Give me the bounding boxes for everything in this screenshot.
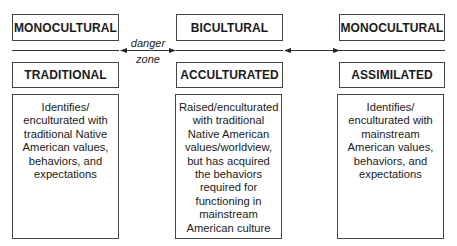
description-box-traditional: Identifies/ enculturated with traditiona… bbox=[12, 94, 119, 239]
category-box-monocultural-left: MONOCULTURAL bbox=[12, 14, 119, 41]
type-box-traditional: TRADITIONAL bbox=[12, 62, 119, 88]
description-box-acculturated: Raised/enculturated with traditional Nat… bbox=[175, 94, 282, 239]
double-arrow-icon-right bbox=[284, 46, 340, 55]
danger-zone-label: danger zone bbox=[128, 37, 168, 65]
category-label: MONOCULTURAL bbox=[14, 21, 117, 35]
category-box-bicultural: BICULTURAL bbox=[176, 14, 283, 41]
type-box-assimilated: ASSIMILATED bbox=[339, 62, 445, 88]
category-label: MONOCULTURAL bbox=[341, 21, 444, 35]
type-label: ACCULTURATED bbox=[180, 68, 279, 82]
danger-label-line1: danger bbox=[128, 37, 168, 49]
danger-label-line2: zone bbox=[128, 53, 168, 65]
description-text: Raised/enculturated with traditional Nat… bbox=[179, 101, 279, 234]
type-box-acculturated: ACCULTURATED bbox=[176, 62, 283, 88]
divider-line-left bbox=[12, 50, 119, 51]
description-text: Identifies/ enculturated with traditiona… bbox=[23, 101, 109, 180]
type-label: ASSIMILATED bbox=[351, 68, 433, 82]
divider-line-middle bbox=[176, 50, 283, 51]
divider-line-right bbox=[339, 50, 445, 51]
category-label: BICULTURAL bbox=[191, 21, 268, 35]
type-label: TRADITIONAL bbox=[24, 68, 106, 82]
category-box-monocultural-right: MONOCULTURAL bbox=[339, 14, 445, 41]
description-text: Identifies/ enculturated with mainstream… bbox=[348, 101, 434, 180]
description-box-assimilated: Identifies/ enculturated with mainstream… bbox=[337, 94, 444, 239]
